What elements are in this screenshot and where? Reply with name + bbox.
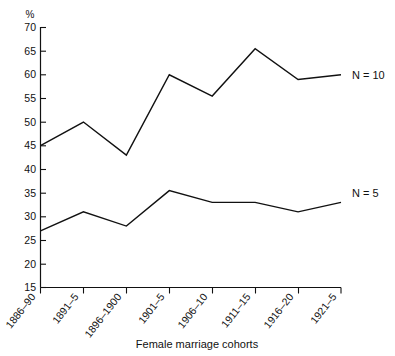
y-axis-unit-label: % [26, 9, 35, 20]
series-line-n10 [41, 49, 342, 155]
y-tick-label: 50 [24, 116, 36, 128]
x-tick-marks [41, 288, 342, 294]
series-line-n5 [41, 191, 342, 231]
y-tick-labels: 70 65 60 55 50 45 40 35 30 25 20 15 [24, 21, 36, 293]
y-tick-label: 20 [24, 258, 36, 270]
x-tick-label: 1891–5 [50, 291, 81, 326]
x-tick-label: 1906–10 [175, 291, 210, 331]
x-tick-label: 1921–5 [308, 291, 339, 326]
y-tick-label: 25 [24, 234, 36, 246]
chart-canvas: % 70 65 60 55 50 45 40 35 30 [0, 0, 395, 356]
x-tick-label: 1896–1900 [82, 291, 124, 340]
x-tick-label: 1901–5 [136, 291, 167, 326]
x-tick-label: 1911–15 [218, 291, 252, 330]
x-tick-label: 1916–20 [261, 291, 296, 331]
x-tick-label: 1886–90 [3, 291, 38, 331]
x-axis-title: Female marriage cohorts [136, 338, 259, 350]
x-tick-labels: 1886–90 1891–5 1896–1900 1901–5 1906–10 … [3, 291, 339, 340]
series-label-n5: N = 5 [352, 187, 379, 199]
y-tick-label: 55 [24, 92, 36, 104]
y-tick-label: 60 [24, 68, 36, 80]
y-tick-label: 30 [24, 210, 36, 222]
y-tick-label: 40 [24, 163, 36, 175]
y-tick-label: 15 [24, 281, 36, 293]
y-tick-label: 65 [24, 45, 36, 57]
y-tick-marks [41, 28, 47, 288]
y-tick-label: 35 [24, 187, 36, 199]
y-tick-label: 45 [24, 139, 36, 151]
y-tick-label: 70 [24, 21, 36, 33]
line-chart: % 70 65 60 55 50 45 40 35 30 [0, 0, 395, 356]
series-label-n10: N = 10 [352, 69, 385, 81]
